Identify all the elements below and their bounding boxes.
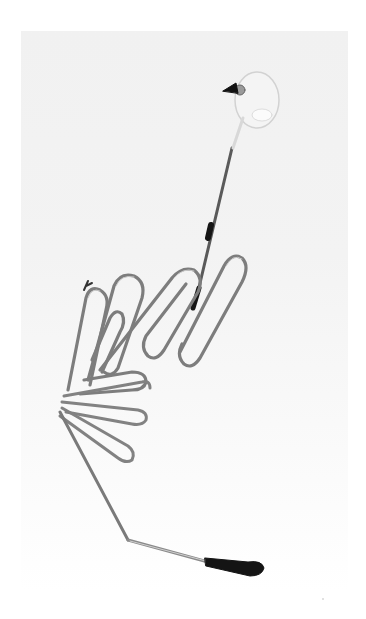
- neck-joint: [208, 225, 211, 238]
- tail-loop-1: [62, 402, 146, 425]
- sculpture-neck: [196, 148, 232, 300]
- loop-4: [179, 256, 246, 366]
- leg-upper: [60, 412, 128, 540]
- glass-head-highlight: [252, 109, 272, 121]
- leg-lower-highlight: [130, 541, 206, 561]
- speck: [322, 598, 324, 600]
- wire-sculpture: [0, 0, 366, 619]
- head-neck-connector: [233, 118, 243, 148]
- photograph: [0, 0, 366, 619]
- body-loops: [68, 256, 246, 394]
- beak: [223, 83, 238, 93]
- foot: [205, 558, 264, 576]
